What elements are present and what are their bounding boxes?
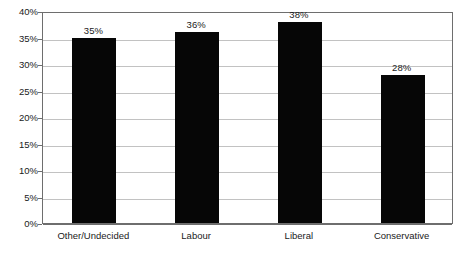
bar-value-label: 28% <box>372 63 432 73</box>
bar <box>72 38 116 224</box>
y-axis-tick-label: 10% <box>0 166 38 176</box>
y-axis-tick-label: 30% <box>0 60 38 70</box>
plot-area <box>42 12 453 224</box>
bar-value-label: 35% <box>63 26 123 36</box>
bar <box>278 22 322 223</box>
y-axis-tick-label: 35% <box>0 34 38 44</box>
y-axis-tick-label: 20% <box>0 113 38 123</box>
x-axis-category-label: Conservative <box>342 231 462 241</box>
bar <box>381 75 425 223</box>
bar-value-label: 36% <box>166 20 226 30</box>
y-axis-tick-label: 40% <box>0 7 38 17</box>
y-axis-tick-label: 0% <box>0 219 38 229</box>
y-axis-tick-label: 25% <box>0 87 38 97</box>
y-axis-tick-mark <box>38 224 42 225</box>
gridline <box>43 224 452 225</box>
bar-value-label: 38% <box>269 10 329 20</box>
bar <box>175 32 219 223</box>
bar-chart: 0%5%10%15%20%25%30%35%40% 35%36%38%28% O… <box>0 0 462 254</box>
y-axis-tick-label: 15% <box>0 140 38 150</box>
y-axis-tick-label: 5% <box>0 193 38 203</box>
